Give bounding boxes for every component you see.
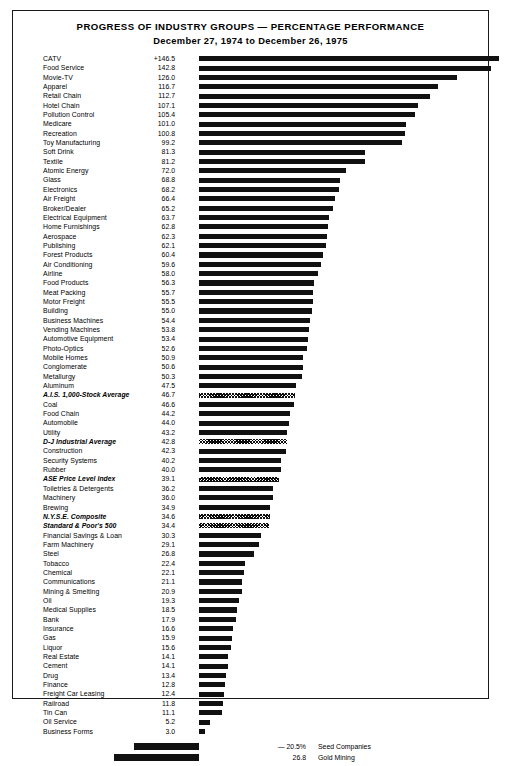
row-value: 12.8: [117, 680, 175, 689]
row-label: Automotive Equipment: [43, 334, 113, 343]
row-label: Utility: [43, 428, 60, 437]
bar-track: [199, 138, 488, 147]
bar-track: [199, 194, 488, 203]
row-label: Chemical: [43, 568, 72, 577]
bar: [199, 570, 244, 575]
chart-row: ASE Price Level Index39.1: [13, 474, 488, 483]
row-label: Toiletries & Detergents: [43, 484, 113, 493]
row-label: Medicare: [43, 119, 72, 128]
row-label: Real Estate: [43, 652, 79, 661]
row-value: 18.5: [117, 605, 175, 614]
bar-track: [199, 661, 488, 670]
bar: [199, 542, 259, 547]
chart-row: Chemical22.1: [13, 568, 488, 577]
chart-row: Bank17.9: [13, 615, 488, 624]
bar-track: [199, 605, 488, 614]
chart-row: Finance12.8: [13, 680, 488, 689]
row-value: 30.3: [117, 531, 175, 540]
chart-row: Brewing34.9: [13, 503, 488, 512]
row-value: 62.3: [117, 232, 175, 241]
bar-track: [199, 147, 488, 156]
chart-row: Air Conditioning59.6: [13, 260, 488, 269]
bar-track: [199, 260, 488, 269]
row-value: 46.6: [117, 400, 175, 409]
chart-row: Pollution Control105.4: [13, 110, 488, 119]
chart-row: Photo-Optics52.6: [13, 344, 488, 353]
bar-track: [199, 101, 488, 110]
chart-row: Conglomerate50.6: [13, 362, 488, 371]
negative-bar: [134, 743, 199, 749]
row-value: 46.7: [117, 390, 175, 399]
bar: [199, 682, 225, 687]
bar-track: [199, 568, 488, 577]
row-label: Railroad: [43, 699, 69, 708]
bar-track: [199, 297, 488, 306]
bar: [199, 75, 457, 80]
row-value: 15.6: [117, 643, 175, 652]
chart-row: Automobile44.0: [13, 418, 488, 427]
row-label: Aerospace: [43, 232, 76, 241]
bar-track: [199, 390, 488, 399]
chart-row: Railroad11.8: [13, 699, 488, 708]
row-label: D-J Industrial Average: [43, 437, 116, 446]
bar: [199, 561, 245, 566]
chart-frame: PROGRESS OF INDUSTRY GROUPS — PERCENTAGE…: [12, 10, 489, 699]
row-value: 60.4: [117, 250, 175, 259]
row-value: 116.7: [117, 82, 175, 91]
chart-row: Insurance16.6: [13, 624, 488, 633]
bar-track: [199, 624, 488, 633]
chart-row: Construction42.3: [13, 446, 488, 455]
bar-track: [199, 540, 488, 549]
row-value: 68.8: [117, 175, 175, 184]
row-value: 52.6: [117, 344, 175, 353]
chart-row: Home Furnishings62.8: [13, 222, 488, 231]
chart-row: Retail Chain112.7: [13, 91, 488, 100]
row-label: Food Products: [43, 278, 88, 287]
row-label: Brewing: [43, 503, 68, 512]
chart-subtitle: December 27, 1974 to December 26, 1975: [13, 36, 488, 46]
row-value: 55.7: [117, 288, 175, 297]
row-label: Cement: [43, 661, 67, 670]
chart-row: Communications21.1: [13, 577, 488, 586]
bar-track: [199, 129, 488, 138]
row-label: Glass: [43, 175, 61, 184]
bar-track: [199, 587, 488, 596]
chart-row: Soft Drink81.3: [13, 147, 488, 156]
bar: [199, 290, 313, 295]
bar-track: [199, 671, 488, 680]
bar: [199, 710, 222, 715]
row-value: 58.0: [117, 269, 175, 278]
row-value: 14.1: [117, 661, 175, 670]
bar-track: [199, 652, 488, 661]
row-value: 36.2: [117, 484, 175, 493]
chart-row: Food Products56.3: [13, 278, 488, 287]
bar-track: [199, 689, 488, 698]
chart-row: Movie-TV126.0: [13, 73, 488, 82]
row-value: 16.6: [117, 624, 175, 633]
bar: [199, 421, 289, 426]
bar-track: [199, 531, 488, 540]
chart-row: D-J Industrial Average42.8: [13, 437, 488, 446]
chart-row: Food Chain44.2: [13, 409, 488, 418]
row-value: 63.7: [117, 213, 175, 222]
row-value: 72.0: [117, 166, 175, 175]
bar: [199, 131, 405, 136]
bar-track: [199, 559, 488, 568]
row-label: Building: [43, 306, 68, 315]
row-label: Communications: [43, 577, 95, 586]
bar-track: [199, 213, 488, 222]
bar-track: [199, 549, 488, 558]
row-label: Metallurgy: [43, 372, 75, 381]
chart-row: Utility43.2: [13, 428, 488, 437]
bar-track: [199, 362, 488, 371]
bar-track: [199, 278, 488, 287]
chart-row: Atomic Energy72.0: [13, 166, 488, 175]
chart-row: Meat Packing55.7: [13, 288, 488, 297]
row-label: CATV: [43, 54, 61, 63]
bar-track: [199, 175, 488, 184]
bar: [199, 514, 270, 519]
bar-track: [199, 699, 488, 708]
bar: [199, 654, 228, 659]
bar: [199, 346, 307, 351]
row-label: Food Chain: [43, 409, 79, 418]
